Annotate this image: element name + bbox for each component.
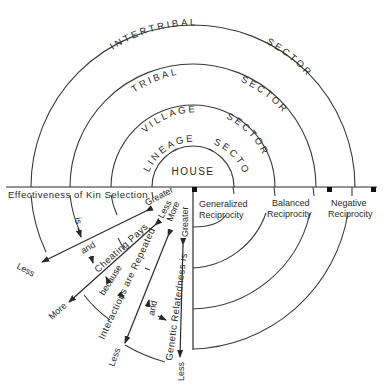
arrow-genetic-relatedness: Greater Genetic Relatedness is Less [163,206,190,381]
connector-is: is [73,217,84,226]
intertribal-label: INTERTRIBAL [108,16,198,51]
house-label: HOUSE [171,166,214,177]
greater-label-4: Greater [180,206,190,237]
balanced-label-2: Reciprocity [267,209,312,219]
marker-end [371,187,376,192]
more-label-2: More [47,300,69,321]
generalized-label-2: Reciprocity [199,210,244,220]
negative-arc-outer [193,213,348,349]
negative-label-2: Reciprocity [328,209,373,219]
negative-arc-inner [193,213,310,309]
less-label-4: Less [176,361,186,381]
marker-negative [327,187,332,192]
less-label-1: Less [15,261,37,279]
balanced-arc [193,213,266,268]
less-label-3: Less [106,346,122,368]
intertribal-sector-label: SECTOR [265,35,315,78]
marker-center [192,187,197,192]
negative-label-1: Negative [331,198,367,208]
genetic-relatedness-label: Genetic Relatedness is [163,252,189,361]
axis-label-kin-selection: Effectiveness of Kin Selection [8,189,148,200]
generalized-label-1: Generalized [199,199,248,209]
kin-selection-sector-diagram: INTERTRIBAL SECTOR TRIBAL SECTOR VILLAGE… [0,0,389,391]
tribal-sector-label: SECTOR [240,73,291,115]
balanced-label-1: Balanced [272,198,310,208]
